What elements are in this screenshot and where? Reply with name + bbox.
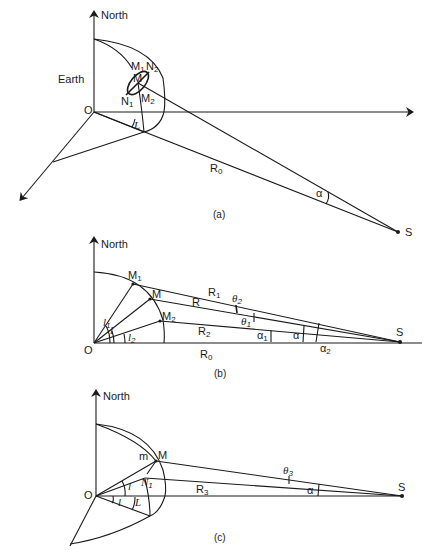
origin-label: O: [84, 344, 93, 356]
source-label: S: [398, 481, 405, 493]
alpha2-tick: [316, 323, 319, 342]
alpha-angle-arc: [326, 192, 329, 204]
m-vector: [147, 461, 156, 474]
theta3-label: θ3: [283, 464, 293, 478]
n2-label: N2: [146, 60, 159, 74]
alpha1-label: α1: [257, 329, 268, 343]
panel-c: North O M m N1 l l L R3 θ3 α S (c): [70, 390, 405, 546]
source-label: S: [396, 326, 403, 338]
panel-a: North Earth O M1 N2 M N1 M2 L R0 α S (a): [22, 9, 412, 238]
r-line: [150, 299, 400, 342]
m-label: M: [152, 288, 161, 300]
front-axis-line: [70, 496, 96, 546]
l-label: l: [110, 324, 113, 336]
earth-equator-right: [150, 496, 165, 516]
l2-angle-arc: [124, 334, 125, 343]
r2-label: R2: [198, 325, 211, 339]
north-label: North: [101, 238, 128, 250]
source-point: [398, 340, 402, 344]
radius-n1: [96, 478, 145, 496]
earth-equator-front: [70, 516, 150, 544]
caption-a: (a): [213, 209, 225, 220]
n1-label: N1: [121, 95, 134, 109]
m-label: M: [133, 72, 142, 84]
north-label: North: [101, 9, 128, 21]
north-label: North: [103, 390, 130, 402]
m2-label: M2: [141, 92, 155, 106]
m-to-s-line: [138, 83, 398, 232]
theta2-tick: [236, 305, 237, 313]
origin-label: O: [84, 104, 93, 116]
alpha-tick: [303, 326, 304, 342]
source-point: [400, 494, 404, 498]
m1-point: [131, 282, 134, 285]
r-label: R: [192, 296, 200, 308]
caption-b: (b): [214, 368, 226, 379]
earth-meridian-arc-inner: [94, 39, 132, 68]
origin-label: O: [84, 489, 93, 501]
m-small-label: m: [139, 450, 148, 462]
earth-label: Earth: [58, 73, 84, 85]
l2-label: l2: [128, 331, 136, 345]
alpha-label: α: [316, 187, 323, 199]
r3-line: [145, 478, 402, 496]
panel-b: North O M1 M M2 R1 R R2 R0 l1 l l2 θ2 θ1…: [84, 238, 422, 379]
alpha-label: α: [293, 329, 300, 341]
alpha-label: α: [307, 484, 314, 496]
earth-equator-front: [53, 132, 144, 162]
theta2-label: θ2: [232, 292, 242, 306]
alpha2-label: α2: [320, 342, 331, 356]
r0-label: R0: [200, 348, 213, 362]
latitude-label: L: [134, 496, 141, 508]
l-label: l: [128, 480, 131, 492]
alpha-tick: [318, 484, 319, 496]
caption-c: (c): [214, 532, 226, 543]
latitude-label: L: [133, 119, 140, 131]
l-lower-label: l: [118, 496, 121, 508]
radius-equator: [96, 496, 150, 516]
r2-line: [160, 321, 400, 342]
r3-label: R3: [196, 483, 209, 497]
diagram-canvas: North Earth O M1 N2 M N1 M2 L R0 α S (a): [0, 0, 429, 555]
r1-label: R1: [208, 286, 221, 300]
l-lower-angle-arc: [112, 496, 113, 503]
source-label: S: [405, 226, 412, 238]
m-label: M: [158, 449, 167, 461]
earth-equator-right: [144, 112, 164, 132]
m-to-s-line: [156, 461, 402, 496]
l-angle-arc: [122, 481, 125, 496]
m1-label: M1: [128, 269, 142, 283]
front-axis-arrow: [22, 112, 94, 198]
m2-label: M2: [162, 310, 176, 324]
theta1-label: θ1: [241, 315, 251, 329]
r0-label: R0: [210, 162, 223, 176]
source-point: [396, 230, 400, 234]
